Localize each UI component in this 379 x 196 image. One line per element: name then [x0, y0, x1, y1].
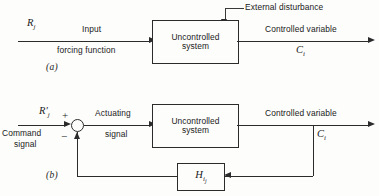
caption-b: (b) — [46, 170, 58, 180]
feedback-tap-vertical — [313, 125, 314, 176]
output-symbol-a: Ci — [296, 44, 305, 58]
summing-junction — [71, 119, 84, 132]
output-arrowhead-icon-a — [368, 37, 375, 43]
output-symbol-base-a: C — [296, 44, 303, 55]
output-signal-line-a — [237, 41, 369, 42]
output-arrowhead-icon-b — [368, 121, 375, 127]
input-symbol-subscript: j — [33, 23, 35, 31]
feedback-return-vertical — [77, 132, 78, 176]
feedback-return-horizontal — [77, 176, 177, 177]
input-label-bottom: forcing function — [57, 45, 115, 55]
actuating-label-bottom: signal — [105, 129, 127, 139]
command-signal-label-top: Command — [2, 128, 41, 138]
external-disturbance-label: External disturbance — [245, 2, 323, 12]
output-symbol-base-b: C — [317, 128, 324, 139]
command-signal-line — [18, 125, 67, 126]
feedback-line-to-h-block — [224, 176, 313, 177]
output-symbol-b: Ci — [317, 128, 326, 142]
feedback-symbol: Hij — [195, 169, 207, 185]
output-label-b: Controlled variable — [265, 108, 337, 118]
output-symbol-subscript-b: i — [324, 134, 326, 142]
actuating-label-top: Actuating — [95, 108, 131, 118]
command-arrowhead-icon — [64, 121, 71, 127]
command-symbol-subscript: j — [48, 111, 50, 119]
input-signal-line-a — [18, 41, 151, 42]
disturbance-leader-vertical — [225, 8, 226, 19]
input-label-top: Input — [82, 24, 101, 34]
input-forcing-symbol: Rj — [27, 17, 35, 31]
uncontrolled-system-block-a: Uncontrolled system — [152, 20, 239, 64]
uncontrolled-system-block-b: Uncontrolled system — [152, 104, 239, 148]
feedback-symbol-subscripts: ij — [203, 175, 207, 183]
summing-minus-sign: − — [61, 131, 67, 142]
block-a-line2: system — [182, 41, 209, 51]
command-signal-label-bottom: signal — [14, 139, 36, 149]
control-system-block-diagram-figure: External disturbance Rj Input forcing fu… — [0, 0, 379, 196]
feedback-transfer-block: Hij — [177, 163, 225, 191]
output-symbol-subscript-a: i — [303, 50, 305, 58]
summing-plus-sign: + — [62, 110, 68, 121]
caption-a: (a) — [46, 62, 58, 72]
feedback-symbol-base: H — [195, 169, 203, 180]
output-label-a: Controlled variable — [265, 24, 337, 34]
command-input-symbol: R′j — [39, 105, 50, 119]
disturbance-leader-horizontal — [225, 8, 244, 9]
actuating-signal-line — [84, 125, 151, 126]
feedback-arrowhead-icon-into-h — [224, 172, 231, 178]
feedback-subscript-j: j — [205, 178, 207, 184]
output-signal-line-b — [237, 125, 369, 126]
block-b-line2: system — [182, 125, 209, 135]
